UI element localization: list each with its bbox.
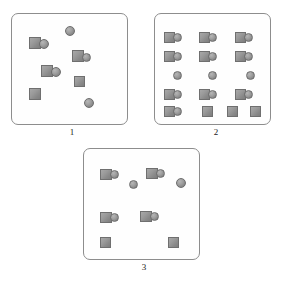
panel-2-circle-14 xyxy=(208,71,217,80)
panel-1-circle-5 xyxy=(82,53,91,62)
figure-container: 123 xyxy=(0,0,282,283)
panel-2-circle-2 xyxy=(173,33,182,42)
panel-3-circle-8 xyxy=(110,213,119,222)
panel-2-circle-13 xyxy=(173,71,182,80)
panel-2-circle-21 xyxy=(244,90,253,99)
panel-2-square-25 xyxy=(227,106,238,117)
panel-2-circle-23 xyxy=(173,107,182,116)
panel-2-circle-12 xyxy=(244,52,253,61)
panel-2-square-24 xyxy=(202,106,213,117)
panel-2-circle-17 xyxy=(173,90,182,99)
panel-1-square-8 xyxy=(74,76,85,87)
panel-1-circle-10 xyxy=(84,98,94,108)
panel-2-circle-6 xyxy=(244,33,253,42)
panel-3-label: 3 xyxy=(134,262,154,272)
panel-2-label: 2 xyxy=(206,127,226,137)
panel-3-circle-5 xyxy=(129,180,138,189)
panel-3-square-12 xyxy=(168,237,179,248)
panel-1-circle-7 xyxy=(51,67,61,77)
panel-1-circle-1 xyxy=(65,26,75,36)
panel-3-circle-4 xyxy=(156,169,165,178)
panel-3-square-11 xyxy=(100,237,111,248)
panel-2-circle-15 xyxy=(246,71,255,80)
panel-1-circle-3 xyxy=(39,39,49,49)
panel-3-circle-2 xyxy=(110,170,119,179)
panel-2-square-26 xyxy=(250,106,261,117)
panel-2-circle-19 xyxy=(208,90,217,99)
panel-1-label: 1 xyxy=(62,127,82,137)
panel-3-circle-6 xyxy=(176,178,186,188)
panel-1-square-9 xyxy=(29,88,41,100)
panel-2-circle-8 xyxy=(173,52,182,61)
panel-2-circle-4 xyxy=(208,33,217,42)
panel-3-circle-10 xyxy=(150,212,159,221)
panel-2-circle-10 xyxy=(208,52,217,61)
top-text-fragment xyxy=(0,0,282,7)
